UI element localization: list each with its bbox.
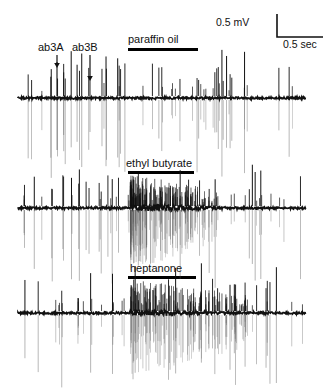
ab3a-label: ab3A	[38, 41, 64, 53]
ab3b-arrow-icon	[85, 55, 97, 87]
stimulus-label-ethyl-butyrate: ethyl butyrate	[126, 157, 192, 169]
electrophysiology-figure: 0.5 mV 0.5 sec ab3A ab3B paraffin oil et…	[0, 0, 325, 389]
stimulus-bar-paraffin-oil	[128, 48, 198, 51]
ab3a-arrow-icon	[52, 55, 64, 73]
recording-traces	[0, 0, 325, 389]
scale-bar-lines	[275, 13, 325, 55]
scale-bar-voltage-label: 0.5 mV	[216, 16, 249, 28]
stimulus-bar-heptanone	[128, 276, 196, 279]
stimulus-bar-ethyl-butyrate	[128, 171, 194, 174]
ab3b-label: ab3B	[72, 41, 98, 53]
stimulus-label-paraffin-oil: paraffin oil	[128, 33, 179, 45]
stimulus-label-heptanone: heptanone	[130, 262, 182, 274]
